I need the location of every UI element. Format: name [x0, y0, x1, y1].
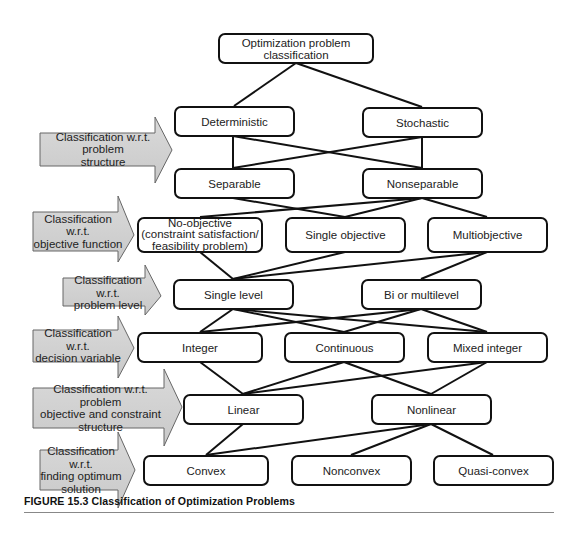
node-convex: Convex: [143, 455, 269, 486]
arrow-label-line: Classification w.r.t. problem: [38, 131, 168, 156]
figure-caption: FIGURE 15.3 Classification of Optimizati…: [24, 495, 295, 507]
arrow-label-line: structure: [78, 421, 123, 434]
arrow-label-constraint-structure: Classification w.r.t. problem objective …: [33, 388, 168, 428]
node-label: Bi or multilevel: [384, 289, 459, 301]
arrow-label-line: objective and constraint: [40, 408, 161, 421]
node-label: feasibility problem): [152, 241, 248, 253]
node-single-objective: Single objective: [285, 217, 406, 253]
arrow-label-line: Classification w.r.t.: [33, 327, 123, 352]
node-multiobjective: Multiobjective: [427, 217, 548, 253]
node-quasi-convex: Quasi-convex: [433, 455, 554, 486]
node-separable: Separable: [174, 168, 295, 199]
node-continuous: Continuous: [284, 332, 405, 363]
node-label: Nonlinear: [407, 404, 456, 416]
arrow-label-optimum-solution: Classification w.r.t. finding optimum so…: [38, 450, 124, 490]
arrow-label-line: Classification w.r.t. problem: [33, 383, 168, 408]
arrow-label-line: Classification w.r.t.: [62, 274, 154, 299]
node-deterministic: Deterministic: [174, 106, 295, 137]
optimization-classification-diagram: Classification w.r.t. problem structure …: [0, 0, 580, 540]
node-label: Nonconvex: [323, 465, 381, 477]
arrow-label-problem-structure: Classification w.r.t. problem structure: [38, 133, 168, 166]
arrow-label-decision-variable: Classification w.r.t. decision variable: [33, 330, 123, 362]
node-label: Linear: [228, 404, 260, 416]
node-label: Single level: [204, 289, 263, 301]
node-single-level: Single level: [173, 279, 294, 310]
arrow-label-line: solution: [61, 483, 101, 496]
arrow-label-line: problem level: [74, 299, 142, 312]
arrow-label-line: finding optimum: [40, 470, 121, 483]
arrow-label-line: decision variable: [35, 352, 121, 365]
node-label: Deterministic: [201, 116, 267, 128]
node-label: Optimization problem classification: [220, 37, 372, 61]
node-label: Quasi-convex: [458, 465, 528, 477]
node-no-objective: No-objective (constraint satisfaction/ f…: [137, 217, 263, 253]
arrow-label-problem-level: Classification w.r.t. problem level: [62, 278, 154, 308]
node-nonseparable: Nonseparable: [362, 168, 483, 199]
arrow-label-line: objective function: [34, 238, 123, 251]
node-integer: Integer: [137, 332, 263, 363]
node-label: Multiobjective: [453, 229, 523, 241]
node-nonconvex: Nonconvex: [291, 455, 412, 486]
node-bi-multilevel: Bi or multilevel: [361, 279, 482, 310]
node-linear: Linear: [183, 394, 304, 425]
arrow-label-objective-function: Classification w.r.t. objective function: [33, 212, 123, 251]
node-label: Mixed integer: [453, 342, 522, 354]
node-label: Convex: [187, 465, 226, 477]
node-root: Optimization problem classification: [218, 33, 374, 64]
arrow-label-line: Classification w.r.t.: [33, 213, 123, 238]
node-mixed-integer: Mixed integer: [427, 332, 548, 363]
node-label: Single objective: [305, 229, 386, 241]
caption-divider: [24, 512, 554, 513]
node-label: Stochastic: [396, 117, 449, 129]
node-nonlinear: Nonlinear: [371, 394, 492, 425]
node-label: Integer: [182, 342, 218, 354]
node-label: Nonseparable: [387, 178, 459, 190]
node-stochastic: Stochastic: [362, 107, 483, 138]
arrow-label-line: Classification w.r.t.: [38, 445, 124, 470]
node-label: Continuous: [315, 342, 373, 354]
node-label: Separable: [208, 178, 260, 190]
arrow-label-line: structure: [81, 156, 126, 169]
